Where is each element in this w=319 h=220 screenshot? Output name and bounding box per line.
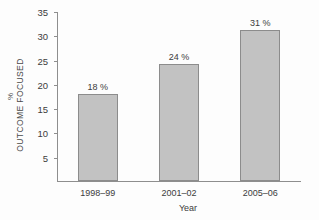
y-axis-tick-label: 15 xyxy=(22,104,52,115)
x-axis-title: Year xyxy=(0,203,319,213)
y-axis-tick-mark xyxy=(54,133,57,134)
plot-area: 18 %24 %31 % xyxy=(57,12,301,182)
y-axis-line xyxy=(57,12,58,182)
x-axis-title-label: Year xyxy=(179,203,197,213)
x-axis-line xyxy=(57,181,301,182)
y-axis-tick-mark xyxy=(54,36,57,37)
x-axis-tick-label: 2005–06 xyxy=(243,188,278,198)
y-axis-tick-label: 25 xyxy=(22,55,52,66)
y-axis-tick-mark xyxy=(54,85,57,86)
y-axis-tick-labels: 5101520253035 xyxy=(22,0,52,220)
bar-value-label: 24 % xyxy=(169,52,190,62)
bar-value-label: 18 % xyxy=(87,82,108,92)
bar[interactable] xyxy=(78,94,118,181)
bar[interactable] xyxy=(159,64,199,181)
y-axis-tick-label: 5 xyxy=(22,152,52,163)
y-axis-tick-label: 30 xyxy=(22,31,52,42)
x-axis-tick-label: 2001–02 xyxy=(161,188,196,198)
x-axis-tick-label: 1998–99 xyxy=(80,188,115,198)
y-axis-tick-mark xyxy=(54,61,57,62)
y-axis-tick-label: 20 xyxy=(22,79,52,90)
y-axis-tick-mark xyxy=(54,158,57,159)
bar-value-label: 31 % xyxy=(250,18,271,28)
y-axis-tick-mark xyxy=(54,109,57,110)
bar[interactable] xyxy=(240,30,280,181)
bar-chart: % OUTCOME FOCUSED 5101520253035 18 %24 %… xyxy=(0,0,319,220)
y-axis-tick-mark xyxy=(54,12,57,13)
y-axis-tick-label: 35 xyxy=(22,7,52,18)
y-axis-tick-label: 10 xyxy=(22,128,52,139)
